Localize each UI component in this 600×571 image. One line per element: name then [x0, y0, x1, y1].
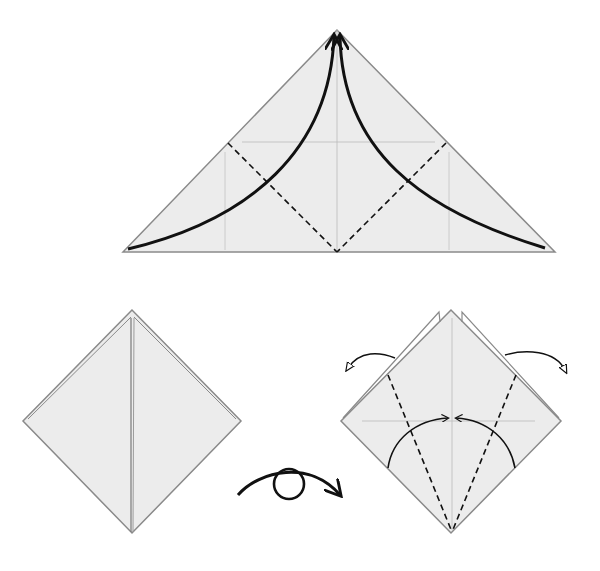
turn-over-icon	[238, 469, 340, 499]
step-1-triangle	[123, 30, 555, 252]
unfold-arrow-left-icon	[348, 354, 395, 368]
step-2-diamond	[23, 310, 241, 533]
step-3-diamond	[341, 310, 565, 533]
unfold-arrow-right-icon	[505, 352, 565, 370]
origami-diagram	[0, 0, 600, 571]
